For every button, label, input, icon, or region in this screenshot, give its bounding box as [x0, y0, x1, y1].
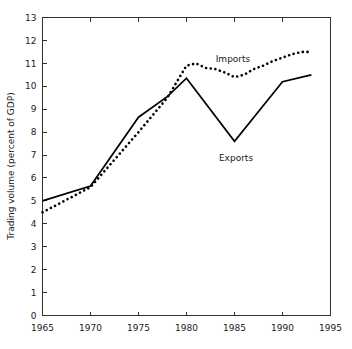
- chart-container: 012345678910111213 196519701975198019851…: [0, 0, 352, 349]
- y-tick-label: 5: [31, 196, 37, 206]
- y-tick-label: 4: [31, 219, 37, 229]
- x-tick-label: 1985: [223, 323, 246, 333]
- y-tick-label: 2: [31, 265, 37, 275]
- y-tick-label: 1: [31, 288, 37, 298]
- trading-volume-line-chart: 012345678910111213 196519701975198019851…: [0, 0, 352, 349]
- imports-series-label: Imports: [216, 54, 251, 64]
- y-axis-title: Trading volume (percent of GDP): [6, 92, 16, 240]
- y-tick-label: 10: [25, 81, 37, 91]
- y-tick-label: 6: [31, 173, 37, 183]
- y-tick-label: 3: [31, 242, 37, 252]
- x-tick-label: 1975: [127, 323, 150, 333]
- x-tick-label: 1990: [271, 323, 294, 333]
- y-tick-label: 8: [31, 127, 37, 137]
- x-tick-label: 1980: [175, 323, 198, 333]
- y-tick-label: 0: [31, 311, 37, 321]
- y-tick-label: 13: [25, 13, 36, 23]
- exports-series-label: Exports: [219, 153, 253, 163]
- x-tick-label: 1965: [31, 323, 54, 333]
- x-tick-label: 1995: [319, 323, 342, 333]
- y-tick-label: 12: [25, 36, 36, 46]
- y-tick-label: 11: [25, 59, 36, 69]
- y-tick-label: 7: [31, 150, 37, 160]
- y-tick-label: 9: [31, 104, 37, 114]
- x-tick-label: 1970: [79, 323, 102, 333]
